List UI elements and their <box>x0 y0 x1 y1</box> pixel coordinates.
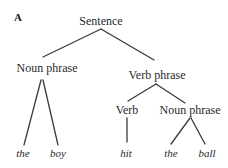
edge-np1-boy <box>43 80 58 145</box>
word-the-2: the <box>164 147 177 159</box>
node-noun-phrase-1: Noun phrase <box>17 62 78 74</box>
node-noun-phrase-2: Noun phrase <box>160 104 221 116</box>
node-sentence: Sentence <box>79 15 122 27</box>
node-verb-phrase: Verb phrase <box>129 69 186 81</box>
edge-sentence-vp <box>101 29 154 60</box>
word-ball: ball <box>198 147 215 159</box>
edge-vp-verb <box>128 84 156 101</box>
edge-np1-the <box>24 80 41 145</box>
word-hit: hit <box>120 147 132 159</box>
syntax-tree-diagram: A Sentence Noun phrase Verb phrase Verb … <box>0 0 228 168</box>
edge-np2-ball <box>191 118 205 144</box>
node-verb: Verb <box>116 104 139 116</box>
edge-vp-np2 <box>156 84 185 103</box>
panel-label: A <box>14 11 22 23</box>
word-the-1: the <box>16 147 29 159</box>
word-boy: boy <box>50 147 66 159</box>
edge-np2-the <box>171 118 190 144</box>
edge-sentence-np <box>43 29 101 57</box>
